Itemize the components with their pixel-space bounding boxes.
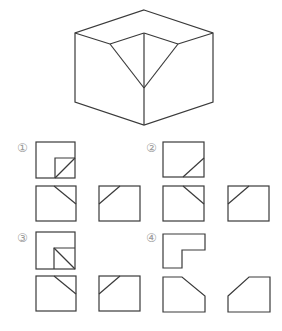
option-3-label: ③ bbox=[17, 231, 28, 245]
isometric-cube bbox=[75, 10, 213, 125]
option-3[interactable]: ③ bbox=[17, 231, 140, 311]
cut-edge bbox=[110, 44, 144, 88]
option-2-side-view bbox=[228, 186, 269, 221]
option-2-front-view bbox=[163, 186, 204, 221]
option-1-top-view bbox=[36, 142, 75, 178]
option-4-label: ④ bbox=[146, 231, 157, 245]
option-3-side-view bbox=[99, 276, 140, 311]
option-1-side-view bbox=[99, 186, 140, 221]
cut-edge bbox=[110, 33, 144, 44]
option-1-front-view bbox=[36, 186, 76, 221]
cut-edge bbox=[144, 44, 178, 88]
option-4-side-view bbox=[228, 277, 270, 312]
option-1-label: ① bbox=[17, 141, 28, 155]
option-4-front-view bbox=[163, 277, 205, 312]
option-3-front-view bbox=[36, 276, 76, 311]
cube-edge bbox=[75, 33, 110, 44]
option-3-top-view bbox=[36, 232, 75, 269]
option-2-label: ② bbox=[146, 141, 157, 155]
option-1[interactable]: ① bbox=[17, 141, 140, 221]
cut-edge bbox=[144, 33, 178, 44]
figure-canvas: ① ② ③ bbox=[0, 0, 282, 331]
option-4[interactable]: ④ bbox=[146, 231, 270, 312]
option-2-top-view bbox=[163, 142, 204, 177]
option-4-top-view bbox=[163, 234, 205, 268]
cube-edge bbox=[178, 33, 213, 44]
option-2[interactable]: ② bbox=[146, 141, 269, 221]
